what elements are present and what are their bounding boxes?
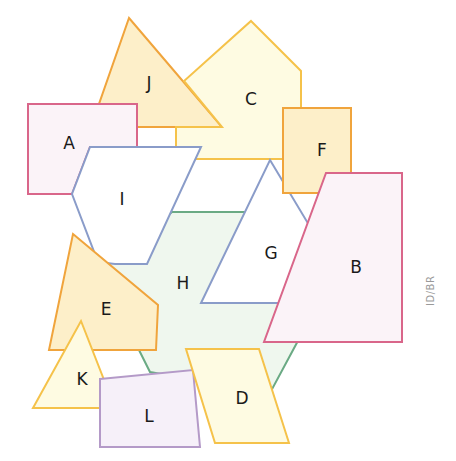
shape-d-label: D (235, 388, 248, 408)
shape-b-label: B (350, 257, 362, 277)
shape-i-label: I (119, 189, 124, 209)
shape-g-label: G (264, 243, 277, 263)
shape-l-label: L (144, 406, 154, 426)
shape-e-label: E (101, 299, 112, 319)
shapes-diagram: HJCAGIFBEKLD ID/BR (0, 0, 456, 461)
shape-j-label: J (145, 73, 151, 93)
shapes-layer: HJCAGIFBEKLD (28, 18, 402, 447)
shape-c-label: C (245, 89, 257, 109)
shape-f-label: F (317, 140, 327, 160)
shape-h-label: H (177, 273, 190, 293)
image-credit: ID/BR (425, 276, 436, 306)
shape-k-label: K (76, 369, 88, 389)
shape-a-label: A (63, 133, 75, 153)
shape-l: L (100, 370, 200, 447)
